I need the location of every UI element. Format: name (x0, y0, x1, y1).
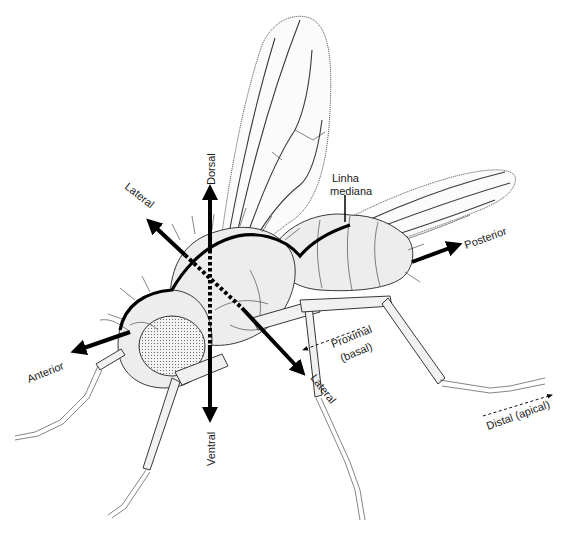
legs (15, 296, 545, 520)
posterior-arrow (412, 246, 455, 262)
label-distal: Distal (apical) (485, 398, 552, 432)
label-linha: Linha (332, 172, 360, 184)
label-mediana: mediana (330, 185, 373, 197)
label-dorsal: Dorsal (205, 153, 217, 185)
label-lateral-lower: Lateral (308, 372, 338, 406)
label-posterior: Posterior (463, 224, 509, 250)
label-anterior: Anterior (25, 359, 66, 385)
fly-orientation-diagram: Dorsal Ventral Lateral Lateral Anterior … (0, 0, 565, 534)
label-lateral-upper: Lateral (123, 180, 157, 210)
label-ventral: Ventral (205, 432, 217, 466)
